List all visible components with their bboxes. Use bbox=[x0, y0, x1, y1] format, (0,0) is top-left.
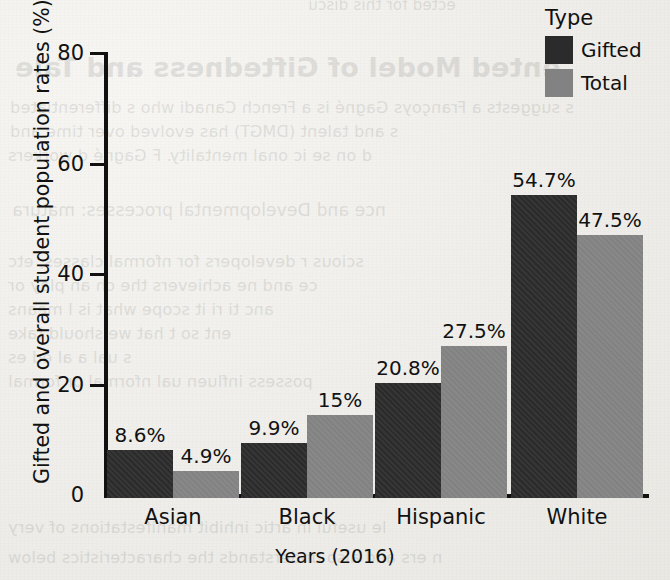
bar-label-hispanic-total: 27.5% bbox=[442, 319, 506, 343]
bar-white-total[interactable] bbox=[577, 235, 643, 498]
y-tick-mark-20 bbox=[90, 384, 105, 387]
legend-title: Type bbox=[545, 6, 642, 30]
legend-label-gifted: Gifted bbox=[581, 38, 642, 62]
x-tick-label-white: White bbox=[546, 505, 607, 529]
y-tick-label-40: 40 bbox=[44, 262, 84, 286]
bar-label-black-gifted: 9.9% bbox=[249, 416, 300, 440]
bar-label-white-total: 47.5% bbox=[578, 208, 642, 232]
bar-black-total[interactable] bbox=[307, 415, 373, 498]
bar-label-asian-total: 4.9% bbox=[181, 444, 232, 468]
bar-label-black-total: 15% bbox=[318, 388, 362, 412]
bar-label-asian-gifted: 8.6% bbox=[115, 423, 166, 447]
legend-label-total: Total bbox=[581, 71, 628, 95]
bar-label-hispanic-gifted: 20.8% bbox=[376, 356, 440, 380]
bar-asian-total[interactable] bbox=[173, 471, 239, 498]
x-tick-label-asian: Asian bbox=[144, 505, 201, 529]
chart-legend: Type Gifted Total bbox=[545, 6, 642, 102]
legend-item-gifted[interactable]: Gifted bbox=[545, 36, 642, 64]
y-tick-label-80: 80 bbox=[44, 41, 84, 65]
scanned-page-background: ected for this discu ented Model of Gift… bbox=[0, 0, 670, 580]
grouped-bar-chart: Gifted and overall student population ra… bbox=[0, 0, 670, 580]
y-tick-label-20: 20 bbox=[44, 373, 84, 397]
legend-swatch-gifted-icon bbox=[545, 36, 573, 64]
y-tick-label-60: 60 bbox=[44, 152, 84, 176]
y-tick-mark-80 bbox=[90, 52, 105, 55]
x-axis-title: Years (2016) bbox=[0, 545, 670, 567]
bar-white-gifted[interactable] bbox=[511, 195, 577, 498]
bar-asian-gifted[interactable] bbox=[107, 450, 173, 498]
legend-swatch-total-icon bbox=[545, 69, 573, 97]
legend-item-total[interactable]: Total bbox=[545, 69, 642, 97]
y-tick-mark-40 bbox=[90, 273, 105, 276]
y-tick-mark-60 bbox=[90, 163, 105, 166]
bar-hispanic-gifted[interactable] bbox=[375, 383, 441, 498]
x-tick-label-hispanic: Hispanic bbox=[396, 505, 485, 529]
bar-black-gifted[interactable] bbox=[241, 443, 307, 498]
bar-label-white-gifted: 54.7% bbox=[512, 168, 576, 192]
x-tick-label-black: Black bbox=[279, 505, 336, 529]
bar-hispanic-total[interactable] bbox=[441, 346, 507, 498]
y-tick-label-0: 0 bbox=[44, 483, 84, 507]
